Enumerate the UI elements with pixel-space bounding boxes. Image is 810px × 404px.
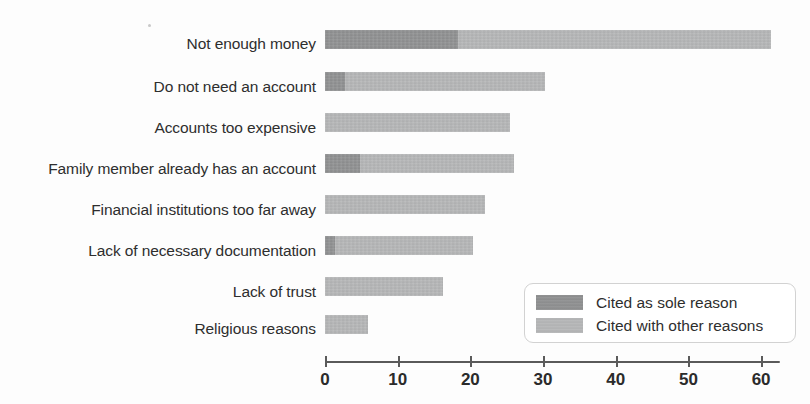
bar-segment-other-reasons xyxy=(360,154,514,173)
bar-row xyxy=(325,30,771,49)
legend-label: Cited with other reasons xyxy=(596,315,763,336)
legend-swatch-sole-reason xyxy=(536,295,583,310)
x-axis-tick-label: 40 xyxy=(596,370,636,390)
bar-row xyxy=(325,277,443,296)
legend-swatch-other-reasons xyxy=(536,318,583,333)
category-label: Lack of necessary documentation xyxy=(0,242,316,259)
bar-segment-other-reasons xyxy=(325,277,443,296)
x-axis-tick-label: 60 xyxy=(741,370,781,390)
horizontal-stacked-bar-chart: Not enough money Do not need an account … xyxy=(0,0,810,404)
bar-segment-sole-reason xyxy=(325,154,360,173)
category-label: Family member already has an account xyxy=(0,160,316,177)
bar-segment-sole-reason xyxy=(325,30,458,49)
x-axis-tick-label: 50 xyxy=(668,370,708,390)
x-axis-tick xyxy=(470,356,472,367)
bar-segment-other-reasons xyxy=(458,30,771,49)
bar-row xyxy=(325,195,485,214)
bar-segment-sole-reason xyxy=(325,72,345,91)
category-label: Not enough money xyxy=(0,35,316,52)
chart-legend: Cited as sole reason Cited with other re… xyxy=(524,283,796,343)
bar-row xyxy=(325,113,510,132)
bar-row xyxy=(325,236,473,255)
x-axis-line xyxy=(325,361,780,363)
category-label: Do not need an account xyxy=(0,78,316,95)
x-axis-tick xyxy=(616,356,618,367)
bar-segment-other-reasons xyxy=(335,236,472,255)
category-axis-labels: Not enough money Do not need an account … xyxy=(0,0,316,360)
x-axis-tick-label: 0 xyxy=(305,370,345,390)
bar-row xyxy=(325,315,368,334)
category-label: Accounts too expensive xyxy=(0,119,316,136)
x-axis-tick xyxy=(325,356,327,367)
category-label: Religious reasons xyxy=(0,320,316,337)
x-axis-tick xyxy=(688,356,690,367)
x-axis-tick-label: 20 xyxy=(450,370,490,390)
legend-label: Cited as sole reason xyxy=(596,292,737,313)
bar-segment-other-reasons xyxy=(345,72,545,91)
bar-row xyxy=(325,154,514,173)
bar-row xyxy=(325,72,545,91)
bar-segment-other-reasons xyxy=(325,315,368,334)
bar-segment-other-reasons xyxy=(325,195,485,214)
x-axis-tick-label: 10 xyxy=(378,370,418,390)
x-axis-tick-label: 30 xyxy=(523,370,563,390)
category-label: Financial institutions too far away xyxy=(0,201,316,218)
x-axis-tick xyxy=(761,356,763,367)
bar-segment-other-reasons xyxy=(325,113,510,132)
x-axis-tick xyxy=(543,356,545,367)
x-axis-tick xyxy=(398,356,400,367)
category-label: Lack of trust xyxy=(0,283,316,300)
bar-segment-sole-reason xyxy=(325,236,335,255)
